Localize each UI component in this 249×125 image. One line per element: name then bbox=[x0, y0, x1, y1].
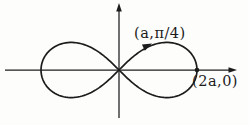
diagram-canvas: (a,π/4) (2a,0) bbox=[0, 0, 249, 125]
lemniscate-diagram: (a,π/4) (2a,0) bbox=[0, 0, 249, 125]
label-point-2a-0: (2a,0) bbox=[192, 73, 238, 89]
y-axis-arrowhead-icon bbox=[116, 3, 122, 12]
label-point-a-pi-4: (a,π/4) bbox=[134, 25, 186, 41]
x-axis-arrowhead-icon bbox=[229, 67, 238, 73]
point-2a-0-dot bbox=[195, 68, 200, 73]
